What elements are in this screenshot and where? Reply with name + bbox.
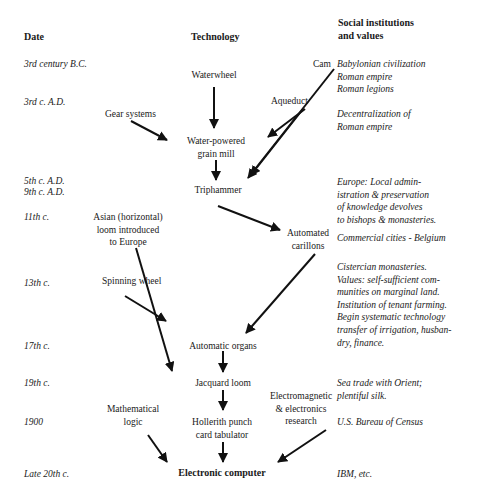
arrow-gear-to-mill (131, 121, 167, 140)
arrow-aqueduct-to-triphammer (251, 109, 303, 175)
arrow-triphammer-to-carillons (218, 206, 280, 230)
arrow-electromagnetic-to-computer (278, 430, 326, 462)
arrow-asian-loom-to-jacquard (136, 248, 172, 371)
arrow-math-to-computer (148, 435, 167, 462)
arrow-spinning-wheel-to-organs (125, 296, 166, 321)
arrows-layer (0, 0, 486, 504)
arrow-carillons-to-organs (246, 254, 315, 333)
